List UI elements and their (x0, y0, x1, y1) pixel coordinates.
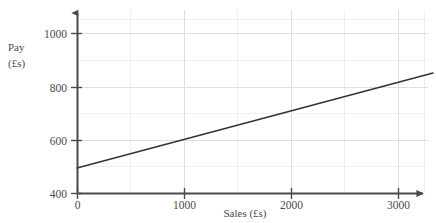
x-tick-label: 0 (75, 199, 81, 211)
chart-canvas: 1000 800 600 400 0 1000 2000 3000 Pay (£… (0, 0, 436, 223)
pay-vs-sales-chart: 1000 800 600 400 0 1000 2000 3000 Pay (£… (0, 0, 436, 223)
y-tick-label: 800 (50, 82, 68, 94)
y-axis-title-line2: (£s) (8, 57, 25, 70)
y-tick-label: 600 (50, 135, 68, 147)
y-axis-title-line1: Pay (8, 41, 25, 53)
x-tick-label: 3000 (387, 199, 410, 211)
y-tick-label: 1000 (44, 28, 67, 40)
x-tick-label: 1000 (173, 199, 196, 211)
x-tick-label: 2000 (280, 199, 303, 211)
y-tick-label: 400 (50, 188, 68, 200)
x-axis-title: Sales (£s) (223, 207, 266, 220)
